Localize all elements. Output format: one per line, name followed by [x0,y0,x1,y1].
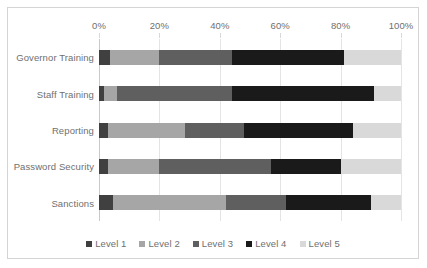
bar-row [99,50,401,65]
x-tick-mark [220,33,221,38]
x-tick-mark [99,33,100,38]
legend-item-level-3[interactable]: Level 3 [193,238,233,249]
x-tick-label: 60% [271,20,290,31]
bar-segment-level-3 [226,195,286,210]
legend-item-level-4[interactable]: Level 4 [246,238,286,249]
bar-segment-level-4 [244,123,353,138]
legend-swatch-icon [139,241,145,247]
x-tick-mark [280,33,281,38]
bar-segment-level-1 [99,123,108,138]
bar-row [99,159,401,174]
bar-segment-level-4 [232,86,374,101]
bar-segment-level-2 [104,86,118,101]
bar-segment-level-1 [99,159,108,174]
x-tick-label: 40% [210,20,229,31]
y-axis-label: Staff Training [37,88,94,99]
bar-segment-level-1 [99,50,110,65]
bar-segment-level-4 [271,159,340,174]
bar-segment-level-3 [117,86,232,101]
x-tick-mark [341,33,342,38]
chart-container: 0%20%40%60%80%100% Governor TrainingStaf… [0,0,427,268]
legend-swatch-icon [300,241,306,247]
bar-segment-level-3 [159,50,231,65]
x-tick-mark [401,33,402,38]
y-axis: Governor TrainingStaff TrainingReporting… [8,39,94,221]
bar-segment-level-4 [232,50,344,65]
x-tick-label: 100% [389,20,414,31]
legend-label: Level 1 [95,238,126,249]
bar-segment-level-2 [108,159,159,174]
bar-segment-level-4 [286,195,371,210]
chart-frame: 0%20%40%60%80%100% Governor TrainingStaf… [7,7,419,259]
y-axis-label: Governor Training [16,52,94,63]
bar-segment-level-5 [344,50,401,65]
x-tick-mark [159,33,160,38]
legend-item-level-2[interactable]: Level 2 [139,238,179,249]
legend-label: Level 5 [309,238,340,249]
legend-label: Level 2 [148,238,179,249]
plot-area [99,39,401,221]
legend-swatch-icon [246,241,252,247]
x-tick-label: 80% [331,20,350,31]
bar-row [99,195,401,210]
bar-segment-level-3 [159,159,271,174]
bar-segment-level-5 [353,123,401,138]
bar-segment-level-2 [110,50,160,65]
bar-segment-level-5 [341,159,401,174]
bar-segment-level-1 [99,195,113,210]
x-tick-label: 0% [92,20,106,31]
legend-item-level-1[interactable]: Level 1 [86,238,126,249]
bar-segment-level-5 [374,86,401,101]
y-axis-label: Sanctions [51,197,94,208]
legend-swatch-icon [86,241,92,247]
y-axis-label: Reporting [52,125,94,136]
legend-swatch-icon [193,241,199,247]
bar-segment-level-2 [113,195,226,210]
legend-label: Level 3 [202,238,233,249]
bar-row [99,86,401,101]
bar-row [99,123,401,138]
legend-item-level-5[interactable]: Level 5 [300,238,340,249]
bar-segment-level-3 [185,123,244,138]
x-tick-label: 20% [150,20,169,31]
bar-segment-level-5 [371,195,401,210]
bar-segment-level-2 [108,123,185,138]
legend-label: Level 4 [255,238,286,249]
chart-legend: Level 1Level 2Level 3Level 4Level 5 [8,238,418,249]
y-axis-label: Password Security [14,161,94,172]
gridline-100pct [401,39,402,221]
